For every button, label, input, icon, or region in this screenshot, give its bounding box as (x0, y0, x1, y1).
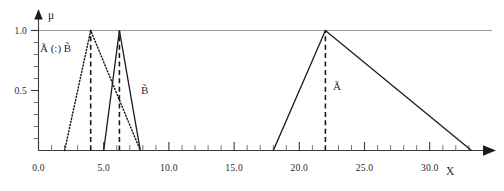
x-tick-label-25: 25.0 (356, 162, 374, 173)
curve-composition-dotted (65, 31, 141, 151)
fuzzy-membership-plot: 1.0 0.5 μ 0.0 5.0 10.0 15.0 20.0 25.0 30… (0, 0, 504, 191)
x-axis-title: X (446, 165, 455, 177)
x-tick-minor-group (52, 145, 469, 151)
x-tick-label-10: 10.0 (160, 162, 178, 173)
plot-canvas: 1.0 0.5 μ 0.0 5.0 10.0 15.0 20.0 25.0 30… (0, 0, 504, 191)
x-tick-label-15: 15.0 (225, 162, 243, 173)
curve-set-a-solid (273, 31, 471, 151)
x-tick-major-group (39, 142, 430, 151)
label-set-b: B̃ (141, 84, 148, 96)
x-tick-label-5: 5.0 (97, 162, 110, 173)
x-tick-label-0: 0.0 (32, 162, 45, 173)
y-axis-arrow-icon (34, 9, 42, 20)
label-composition: Ã (:) B̃ (40, 42, 71, 55)
y-tick-label-1.0: 1.0 (14, 25, 27, 36)
x-axis-arrow-icon (483, 145, 496, 156)
x-tick-label-30: 30.0 (421, 162, 439, 173)
curve-set-b-solid (104, 31, 141, 151)
y-tick-label-0.5: 0.5 (14, 85, 27, 96)
x-tick-label-20: 20.0 (291, 162, 309, 173)
label-set-a: Ã (333, 80, 341, 92)
y-axis-title: μ (48, 9, 54, 22)
